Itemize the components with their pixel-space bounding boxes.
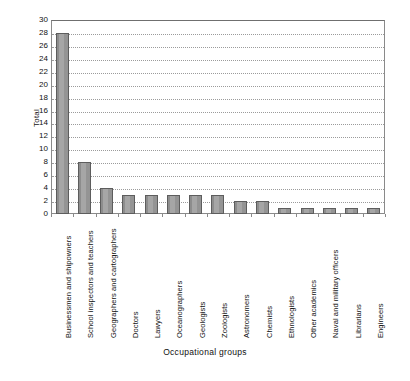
bar-slot bbox=[363, 20, 385, 214]
x-tick-mark bbox=[363, 214, 364, 217]
bar[interactable] bbox=[189, 195, 202, 214]
y-tick-label: 16 bbox=[39, 107, 48, 115]
x-tick-mark bbox=[207, 214, 208, 217]
bar-slot bbox=[96, 20, 118, 214]
y-tick-label: 26 bbox=[39, 42, 48, 50]
bar[interactable] bbox=[234, 201, 247, 214]
bar-slot bbox=[140, 20, 162, 214]
bars-layer bbox=[51, 20, 385, 214]
category-label: Astronomers bbox=[243, 294, 251, 338]
bar[interactable] bbox=[100, 188, 113, 214]
y-tick-label: 18 bbox=[39, 94, 48, 102]
x-axis-title: Occupational groups bbox=[0, 347, 410, 357]
category-label: Ethnologists bbox=[288, 296, 296, 338]
y-tick-label: 6 bbox=[44, 171, 48, 179]
y-tick-label: 30 bbox=[39, 16, 48, 24]
y-tick-label: 22 bbox=[39, 68, 48, 76]
category-label: Librarians bbox=[355, 304, 363, 338]
category-label: School inspectors and teachers bbox=[87, 230, 95, 338]
y-tick-label: 14 bbox=[39, 119, 48, 127]
x-tick-mark bbox=[118, 214, 119, 217]
bar-slot bbox=[274, 20, 296, 214]
y-tick-label: 2 bbox=[44, 197, 48, 205]
bar[interactable] bbox=[78, 162, 91, 214]
bar-slot bbox=[185, 20, 207, 214]
bar[interactable] bbox=[211, 195, 224, 214]
category-label: Oceanographers bbox=[176, 281, 184, 338]
category-label: Geologists bbox=[199, 302, 207, 338]
x-tick-mark bbox=[296, 214, 297, 217]
bar-slot bbox=[207, 20, 229, 214]
x-tick-mark bbox=[274, 214, 275, 217]
x-tick-mark bbox=[229, 214, 230, 217]
category-label: Doctors bbox=[132, 311, 140, 338]
y-axis-tick-labels: 024681012141618202224262830 bbox=[22, 14, 48, 216]
category-label: Naval and military officers bbox=[332, 250, 340, 338]
category-label: Zoologists bbox=[221, 303, 229, 338]
bar-slot bbox=[51, 20, 73, 214]
bar-slot bbox=[318, 20, 340, 214]
y-tick-label: 10 bbox=[39, 145, 48, 153]
y-tick-label: 8 bbox=[44, 158, 48, 166]
bar[interactable] bbox=[256, 201, 269, 214]
y-tick-label: 24 bbox=[39, 55, 48, 63]
x-tick-mark bbox=[73, 214, 74, 217]
category-label: Other academics bbox=[310, 280, 318, 338]
y-tick-label: 4 bbox=[44, 184, 48, 192]
category-label: Businessmen and shipowners bbox=[65, 236, 73, 338]
bar-slot bbox=[118, 20, 140, 214]
x-tick-mark bbox=[162, 214, 163, 217]
x-tick-mark bbox=[340, 214, 341, 217]
y-tick-label: 28 bbox=[39, 29, 48, 37]
bar-chart: Total 024681012141618202224262830 Busine… bbox=[0, 0, 410, 381]
bar-slot bbox=[251, 20, 273, 214]
bar-slot bbox=[162, 20, 184, 214]
bar-slot bbox=[73, 20, 95, 214]
category-label: Geographers and cartographers bbox=[110, 228, 118, 338]
x-tick-mark bbox=[318, 214, 319, 217]
x-axis-tick-marks bbox=[51, 214, 385, 218]
y-tick-label: 20 bbox=[39, 81, 48, 89]
bar[interactable] bbox=[56, 33, 69, 214]
bar[interactable] bbox=[122, 195, 135, 214]
bar[interactable] bbox=[167, 195, 180, 214]
x-tick-mark bbox=[140, 214, 141, 217]
category-label: Chemists bbox=[266, 306, 274, 338]
x-tick-mark bbox=[251, 214, 252, 217]
y-tick-label: 0 bbox=[44, 210, 48, 218]
y-tick-label: 12 bbox=[39, 132, 48, 140]
bar-slot bbox=[340, 20, 362, 214]
x-tick-mark bbox=[96, 214, 97, 217]
category-label: Engineers bbox=[377, 303, 385, 338]
x-axis-category-labels: Businessmen and shipownersSchool inspect… bbox=[51, 220, 385, 340]
bar-slot bbox=[229, 20, 251, 214]
x-tick-mark bbox=[51, 214, 52, 217]
category-label: Lawyers bbox=[154, 309, 162, 338]
bar[interactable] bbox=[145, 195, 158, 214]
x-tick-mark bbox=[385, 214, 386, 217]
x-tick-mark bbox=[185, 214, 186, 217]
bar-slot bbox=[296, 20, 318, 214]
